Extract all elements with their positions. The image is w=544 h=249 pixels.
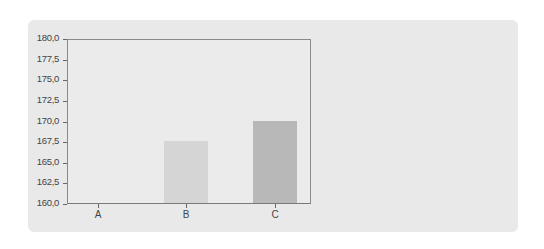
x-tick-mark <box>186 204 187 208</box>
y-tick-label: 160,0 <box>37 197 59 208</box>
x-tick-mark <box>98 204 99 208</box>
y-tick-label: 175,0 <box>37 73 59 84</box>
bar-c <box>253 121 297 204</box>
x-tick-label: C <box>265 209 285 220</box>
y-tick-label: 170,0 <box>37 115 59 126</box>
y-tick-label: 167,5 <box>37 135 59 146</box>
y-tick-label: 165,0 <box>37 156 59 167</box>
plot-area <box>67 39 311 204</box>
x-tick-label: A <box>88 209 108 220</box>
y-tick-label: 180,0 <box>37 32 59 43</box>
y-tick-label: 177,5 <box>37 53 59 64</box>
x-tick-mark <box>275 204 276 208</box>
x-tick-label: B <box>176 209 196 220</box>
y-tick-label: 172,5 <box>37 94 59 105</box>
bar-b <box>164 141 208 203</box>
y-tick-label: 162,5 <box>37 176 59 187</box>
y-tick-mark <box>63 204 67 205</box>
